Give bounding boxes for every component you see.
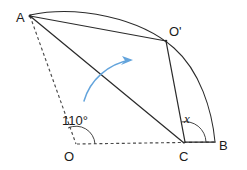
vertex-dot-A [29, 15, 32, 18]
point-label-C: C [179, 149, 188, 164]
point-label-A: A [16, 10, 25, 25]
angle-label-x: x [183, 111, 190, 126]
geometry-figure: A O' O C B 110° x [0, 0, 247, 170]
point-label-O: O [64, 149, 74, 164]
rotation-arrow-head [121, 56, 133, 65]
angle-arc-at-O [68, 126, 95, 144]
angle-label-110-degrees: 110° [62, 113, 88, 128]
vertex-dot-Oprime [165, 40, 168, 43]
point-label-O-prime: O' [169, 24, 182, 39]
point-label-B: B [219, 138, 228, 153]
segment-A-to-Oprime [30, 16, 166, 41]
diagram-canvas: A O' O C B 110° x [0, 0, 247, 170]
